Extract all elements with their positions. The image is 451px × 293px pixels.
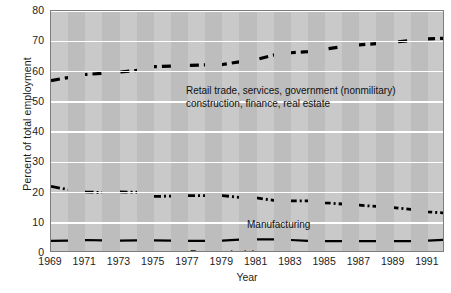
chart-figure: Percent of total employment Retail trade… xyxy=(0,0,451,293)
gridline xyxy=(51,71,443,73)
annotation-services: Retail trade, services, government (nonm… xyxy=(186,85,396,110)
gridline xyxy=(51,162,443,164)
y-axis-title: Percent of total employment xyxy=(21,4,33,244)
plot-area: Retail trade, services, government (nonm… xyxy=(50,10,444,252)
x-axis-title: Year xyxy=(50,271,444,283)
x-axis-tick-label: 1971 xyxy=(73,255,96,267)
x-axis-tick-label: 1975 xyxy=(141,255,164,267)
gridline xyxy=(51,131,443,133)
annotation-services-line1: Retail trade, services, government (nonm… xyxy=(186,85,396,96)
annotation-manufacturing: Manufacturing xyxy=(247,219,310,232)
x-axis-tick-label: 1989 xyxy=(381,255,404,267)
x-axis-tick-label: 1987 xyxy=(347,255,370,267)
x-axis-tick-label: 1983 xyxy=(278,255,301,267)
gridline xyxy=(51,10,443,12)
x-axis-tick-label: 1991 xyxy=(415,255,438,267)
x-axis-tick-label: 1985 xyxy=(312,255,335,267)
x-axis-tick-label: 1973 xyxy=(107,255,130,267)
x-axis-tick-label: 1979 xyxy=(210,255,233,267)
x-axis-tick-label: 1969 xyxy=(38,255,61,267)
gridline xyxy=(51,41,443,43)
x-axis-tick-label: 1981 xyxy=(244,255,267,267)
x-axis-tick-label: 1977 xyxy=(175,255,198,267)
annotation-services-line2: construction, finance, real estate xyxy=(186,98,330,109)
gridline xyxy=(51,192,443,194)
